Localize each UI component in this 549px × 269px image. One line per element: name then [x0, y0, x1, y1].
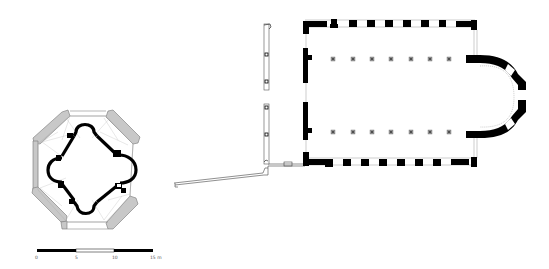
north-colonnade	[331, 57, 451, 61]
scale-bar	[37, 249, 153, 252]
scale-tick-15: 15 m	[150, 255, 162, 260]
octagon-plan	[32, 110, 140, 229]
basilica-plan	[303, 19, 527, 167]
scale-tick-5: 5	[75, 255, 78, 260]
scale-tick-0: 0	[35, 255, 38, 260]
south-colonnade	[331, 130, 451, 134]
scale-tick-10: 10	[112, 255, 118, 260]
connecting-wall	[174, 162, 305, 187]
narthex-wall	[264, 24, 271, 164]
floor-plan-drawing	[0, 0, 549, 269]
